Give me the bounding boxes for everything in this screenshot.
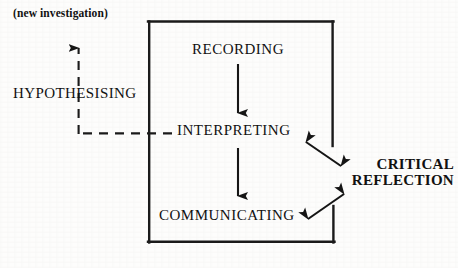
process-diagram: (new investigation) HYPOTHESISING RECORD… bbox=[0, 0, 458, 268]
node-hypothesising: HYPOTHESISING bbox=[13, 86, 137, 102]
arrow-interpreting-critical-reflection bbox=[306, 142, 341, 166]
node-critical-reflection: CRITICAL REFLECTION bbox=[350, 157, 454, 189]
node-interpreting: INTERPRETING bbox=[177, 123, 291, 139]
node-critical-reflection-line-1: CRITICAL bbox=[350, 157, 454, 173]
node-new-investigation: (new investigation) bbox=[13, 7, 108, 19]
node-communicating: COMMUNICATING bbox=[159, 208, 295, 224]
node-recording: RECORDING bbox=[192, 42, 284, 58]
arrow-communicating-critical-reflection bbox=[308, 194, 344, 219]
node-critical-reflection-line-2: REFLECTION bbox=[350, 173, 454, 189]
